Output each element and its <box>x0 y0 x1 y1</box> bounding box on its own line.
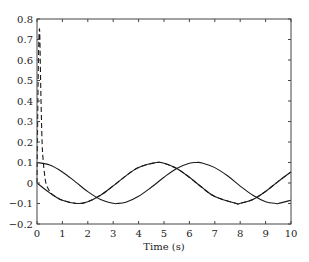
series-line-solid-sin <box>37 162 291 204</box>
x-tick-label: 1 <box>59 228 65 239</box>
y-tick-label: 0.6 <box>17 55 33 66</box>
x-tick-label: 0 <box>34 228 40 239</box>
x-axis-label: Time (s) <box>143 241 184 252</box>
y-tick-label: 0.4 <box>17 96 33 107</box>
y-tick-label: 0.1 <box>17 157 33 168</box>
y-tick-label: −0.1 <box>9 198 33 209</box>
x-tick-label: 5 <box>161 228 167 239</box>
x-tick-label: 8 <box>237 228 243 239</box>
y-tick-label: 0.3 <box>17 116 33 127</box>
y-tick-label: 0.8 <box>17 14 33 25</box>
x-tick-label: 2 <box>85 228 91 239</box>
x-tick-label: 3 <box>110 228 116 239</box>
y-tick-label: 0 <box>27 178 33 189</box>
series-line-solid-cos <box>37 162 291 203</box>
line-chart: 012345678910 −0.2−0.100.10.20.30.40.50.6… <box>0 0 309 262</box>
series-layer <box>37 29 291 204</box>
axes-frame <box>37 19 291 224</box>
x-tick-label: 9 <box>262 228 268 239</box>
x-tick-label: 7 <box>212 228 218 239</box>
x-ticks: 012345678910 <box>34 19 298 239</box>
y-tick-label: −0.2 <box>9 219 33 230</box>
y-tick-label: 0.7 <box>17 34 33 45</box>
y-ticks: −0.2−0.100.10.20.30.40.50.60.70.8 <box>9 14 291 230</box>
x-tick-label: 6 <box>186 228 192 239</box>
x-tick-label: 4 <box>135 228 141 239</box>
y-tick-label: 0.2 <box>17 137 33 148</box>
y-tick-label: 0.5 <box>17 75 33 86</box>
x-tick-label: 10 <box>285 228 298 239</box>
